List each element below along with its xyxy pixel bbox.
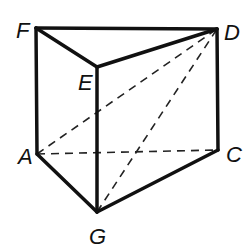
- vertex-label-E: E: [78, 70, 93, 95]
- edge-AC: [37, 150, 218, 154]
- edge-AG: [37, 154, 97, 212]
- edge-FD: [36, 28, 217, 29]
- vertex-label-D: D: [224, 20, 240, 45]
- vertex-label-A: A: [16, 144, 33, 169]
- edge-ED: [97, 29, 217, 67]
- solid-edges: [36, 28, 218, 212]
- vertex-label-F: F: [16, 18, 31, 43]
- edge-GD: [97, 29, 217, 212]
- edge-FA: [36, 28, 37, 154]
- edge-GC: [97, 150, 218, 212]
- triangular-prism-diagram: FDEACG: [0, 0, 250, 252]
- vertex-labels: FDEACG: [16, 18, 242, 249]
- edge-DC: [217, 29, 218, 150]
- vertex-label-C: C: [226, 142, 242, 167]
- edge-FE: [36, 28, 97, 67]
- vertex-label-G: G: [89, 224, 106, 249]
